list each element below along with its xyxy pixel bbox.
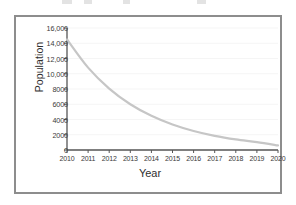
x-tick-label: 2020 (271, 155, 286, 162)
y-tick-label: 12,000 (47, 54, 68, 63)
gridlines (67, 28, 278, 135)
x-tick-label: 2014 (144, 155, 159, 162)
y-tick-label: 4000 (52, 115, 68, 124)
x-tick-label: 2011 (81, 155, 95, 162)
x-tick-label: 2012 (102, 155, 117, 162)
text-remnant (62, 0, 72, 4)
y-tick-label: 0 (64, 146, 68, 155)
x-tick-label: 2017 (207, 155, 222, 162)
page-top-text-artifacts (0, 0, 296, 12)
y-axis-tick-labels: 0200040006000800010,00012,00014,00016,00… (26, 17, 68, 162)
x-tick-label: 2010 (60, 155, 75, 162)
x-axis-title: Year (16, 167, 284, 179)
text-remnant (197, 0, 206, 4)
text-remnant (84, 0, 92, 4)
y-tick-label: 8000 (52, 85, 68, 94)
population-decay-curve (67, 39, 278, 145)
x-tick-label: 2019 (250, 155, 265, 162)
y-tick-label: 2000 (52, 130, 68, 139)
y-tick-label: 10,000 (47, 69, 68, 78)
text-remnant (123, 0, 130, 4)
y-tick-label: 6000 (52, 100, 68, 109)
y-tick-label: 14,000 (47, 39, 68, 48)
x-axis-tick-labels: 2010201120122013201420152016201720182019… (16, 17, 284, 37)
x-tick-label: 2015 (165, 155, 180, 162)
chart-figure: Population 0200040006000800010,00012,000… (14, 15, 282, 194)
plot-area-wrapper: Population 0200040006000800010,00012,000… (16, 17, 280, 192)
x-tick-label: 2016 (186, 155, 201, 162)
x-tick-label: 2018 (228, 155, 243, 162)
x-tick-label: 2013 (123, 155, 138, 162)
